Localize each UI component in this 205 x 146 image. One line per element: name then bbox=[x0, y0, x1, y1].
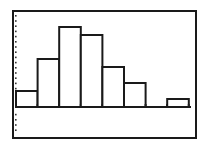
y-axis-dot bbox=[15, 57, 17, 59]
y-axis-dot bbox=[15, 77, 17, 79]
y-axis-dot bbox=[15, 124, 17, 126]
histogram-bar-6 bbox=[124, 83, 146, 107]
y-axis-dot bbox=[15, 36, 17, 38]
y-axis-dot bbox=[15, 72, 17, 74]
y-axis-dot bbox=[15, 15, 17, 17]
y-axis-dot bbox=[15, 46, 17, 48]
y-axis-dot bbox=[15, 129, 17, 131]
y-axis-dot bbox=[15, 114, 17, 116]
x-tick-mark bbox=[145, 104, 147, 106]
y-axis-dot bbox=[15, 20, 17, 22]
y-axis-dot bbox=[15, 83, 17, 85]
y-axis-dot bbox=[15, 41, 17, 43]
histogram-bar-3 bbox=[59, 27, 81, 107]
y-axis-dot bbox=[15, 67, 17, 69]
histogram-bar-4 bbox=[81, 35, 103, 107]
y-axis-dot bbox=[15, 62, 17, 64]
y-axis-dot bbox=[15, 31, 17, 33]
y-axis-dot bbox=[15, 51, 17, 53]
histogram-bar-2 bbox=[38, 59, 60, 107]
histogram-bar-5 bbox=[102, 67, 124, 107]
histogram-bar-8 bbox=[167, 99, 189, 107]
y-axis-dot bbox=[15, 88, 17, 90]
y-axis-dot bbox=[15, 25, 17, 27]
histogram-plot bbox=[0, 0, 205, 146]
histogram-bar-1 bbox=[16, 91, 38, 107]
x-tick-mark bbox=[188, 104, 190, 106]
y-axis-dot bbox=[15, 119, 17, 121]
